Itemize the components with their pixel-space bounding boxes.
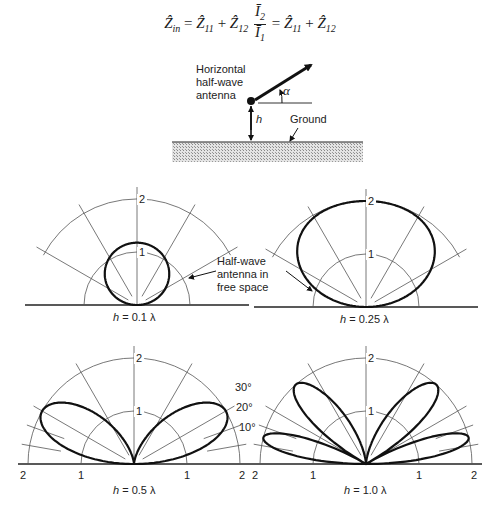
- antenna-dot: [247, 97, 255, 105]
- radial-tick-10: [207, 444, 246, 451]
- caption-value: = 0.25 λ: [346, 313, 389, 325]
- angle-tick-30: 30°: [235, 381, 252, 393]
- caption-p4: h = 1.0 λ: [344, 484, 387, 496]
- free-space-pointer-left-icon: [189, 271, 216, 278]
- height-label: h: [256, 113, 262, 126]
- polar-panel-p1: 12: [25, 187, 249, 305]
- caption-value: = 0.1 λ: [119, 311, 155, 323]
- axis-number: 2: [471, 469, 477, 481]
- ring-label-2: 2: [368, 352, 374, 364]
- axis-number: 2: [239, 469, 245, 481]
- caption-value: = 0.5 λ: [119, 484, 155, 496]
- ring-label-1: 1: [139, 246, 145, 258]
- radial-line-60: [371, 207, 424, 299]
- caption-p2: h = 0.25 λ: [340, 313, 389, 325]
- angle-tick-10: 10°: [239, 421, 256, 433]
- ring-label-2: 2: [136, 352, 142, 364]
- ring-label-1: 1: [136, 405, 142, 417]
- axis-number: 1: [310, 469, 316, 481]
- axis-number: 1: [78, 469, 84, 481]
- polar-panel-p3: 122112: [18, 346, 250, 481]
- ground-hatch: [172, 142, 363, 162]
- ground-label: Ground: [290, 113, 327, 126]
- caption-value: = 1.0 λ: [350, 484, 386, 496]
- free-space-note-line-3: free space: [217, 281, 268, 294]
- ring-label-2: 2: [139, 193, 145, 205]
- radial-line-150: [266, 249, 358, 302]
- axis-number: 2: [252, 469, 258, 481]
- axis-number: 2: [20, 469, 26, 481]
- axis-number: 1: [184, 469, 190, 481]
- antenna-label-line-2: half-wave: [196, 76, 246, 89]
- angle-tick-20: 20°: [236, 401, 253, 413]
- axis-number: 1: [416, 469, 422, 481]
- angle-arc-icon: [280, 90, 282, 103]
- antenna-label-line-3: antenna: [196, 89, 246, 102]
- polar-panel-p2: 12: [254, 189, 478, 307]
- free-space-note: Half-wave antenna in free space: [217, 255, 268, 294]
- ring-label-1: 1: [368, 248, 374, 260]
- polar-panels: 1212122112122112: [18, 187, 482, 481]
- radial-line-120: [308, 207, 361, 299]
- caption-p3: h = 0.5 λ: [113, 484, 156, 496]
- ground-pointer-icon: [290, 128, 298, 141]
- alpha-label: α: [283, 84, 290, 97]
- radial-line-60: [139, 364, 192, 456]
- radial-line-120: [76, 364, 129, 456]
- antenna-label: Horizontal half-wave antenna: [196, 63, 246, 102]
- antenna-label-line-1: Horizontal: [196, 63, 246, 76]
- caption-p1: h = 0.1 λ: [113, 311, 156, 323]
- radial-line-30: [375, 249, 467, 302]
- radial-line-150: [37, 247, 129, 300]
- ring-label-1: 1: [368, 405, 374, 417]
- free-space-note-line-1: Half-wave: [217, 255, 268, 268]
- polar-panel-p4: 122112: [250, 346, 482, 481]
- free-space-note-line-2: antenna in: [217, 268, 268, 281]
- radial-tick-170: [22, 444, 61, 451]
- ring-label-2: 2: [368, 195, 374, 207]
